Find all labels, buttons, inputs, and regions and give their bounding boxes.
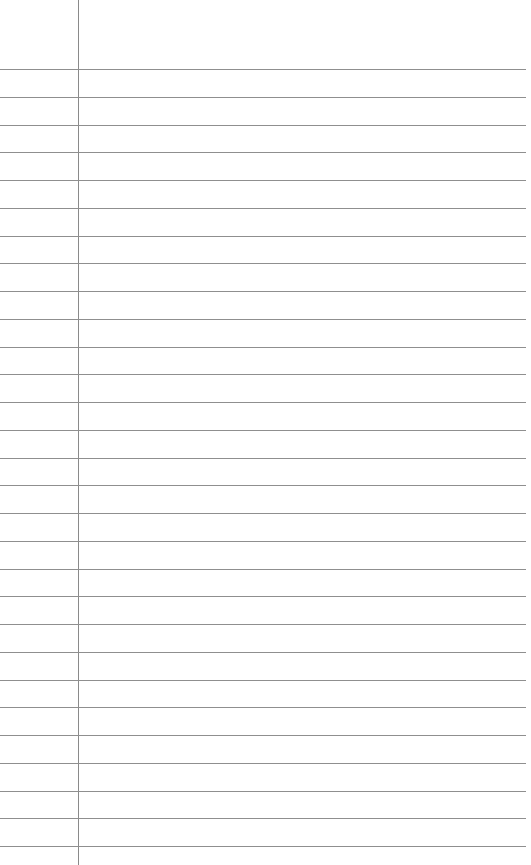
- writing-area: [79, 0, 531, 865]
- lined-paper-page: [0, 0, 531, 865]
